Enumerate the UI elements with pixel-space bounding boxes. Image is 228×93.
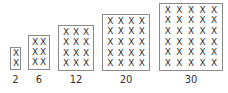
x-mark: X: [63, 28, 69, 37]
x-mark: X: [139, 59, 145, 68]
x-mark: X: [13, 49, 19, 58]
x-mark: X: [128, 27, 134, 36]
x-mark: X: [118, 38, 124, 47]
x-mark: X: [107, 27, 113, 36]
x-mark: X: [83, 28, 89, 37]
x-mark: X: [176, 48, 182, 57]
array-box-2: XX: [10, 47, 21, 70]
x-mark: X: [118, 17, 124, 26]
x-mark: X: [107, 38, 113, 47]
x-mark: X: [139, 17, 145, 26]
x-mark: X: [107, 17, 113, 26]
x-mark: X: [200, 48, 206, 57]
x-mark: X: [40, 38, 46, 47]
x-mark: X: [128, 38, 134, 47]
x-mark: X: [211, 48, 217, 57]
x-mark: X: [176, 59, 182, 68]
x-mark: X: [118, 27, 124, 36]
x-mark: X: [176, 16, 182, 25]
x-mark: X: [63, 38, 69, 47]
array-label-30: 30: [171, 74, 211, 85]
x-mark: X: [176, 6, 182, 15]
x-mark: X: [176, 27, 182, 36]
x-mark: X: [13, 59, 19, 68]
x-mark: X: [211, 38, 217, 47]
array-box-20: XXXXXXXXXXXXXXXXXXXX: [102, 14, 150, 71]
x-mark: X: [211, 59, 217, 68]
x-mark: X: [118, 59, 124, 68]
x-mark: X: [188, 6, 194, 15]
x-mark: X: [200, 6, 206, 15]
array-box-12: XXXXXXXXXXXX: [58, 25, 94, 71]
x-mark: X: [118, 49, 124, 58]
x-mark: X: [128, 59, 134, 68]
x-mark: X: [188, 16, 194, 25]
x-mark: X: [73, 38, 79, 47]
x-mark: X: [200, 38, 206, 47]
x-mark: X: [73, 49, 79, 58]
array-label-20: 20: [106, 74, 146, 85]
x-mark: X: [200, 27, 206, 36]
x-mark: X: [32, 38, 38, 47]
x-mark: X: [139, 38, 145, 47]
x-mark: X: [83, 38, 89, 47]
x-mark: X: [200, 59, 206, 68]
x-mark: X: [211, 6, 217, 15]
x-mark: X: [73, 28, 79, 37]
array-label-6: 6: [19, 74, 59, 85]
array-box-6: XXXXXX: [28, 35, 50, 70]
x-mark: X: [128, 17, 134, 26]
x-mark: X: [83, 59, 89, 68]
x-mark: X: [139, 27, 145, 36]
x-mark: X: [165, 6, 171, 15]
x-mark: X: [165, 59, 171, 68]
x-mark: X: [63, 59, 69, 68]
x-mark: X: [32, 58, 38, 67]
x-mark: X: [188, 38, 194, 47]
x-mark: X: [188, 27, 194, 36]
array-box-30: XXXXXXXXXXXXXXXXXXXXXXXXXXXXXX: [159, 3, 223, 71]
x-mark: X: [107, 59, 113, 68]
x-mark: X: [165, 48, 171, 57]
x-mark: X: [32, 48, 38, 57]
array-label-12: 12: [56, 74, 96, 85]
x-mark: X: [211, 27, 217, 36]
x-mark: X: [188, 48, 194, 57]
x-mark: X: [165, 16, 171, 25]
x-mark: X: [73, 59, 79, 68]
x-mark: X: [107, 49, 113, 58]
x-mark: X: [83, 49, 89, 58]
x-mark: X: [40, 58, 46, 67]
x-mark: X: [63, 49, 69, 58]
x-mark: X: [40, 48, 46, 57]
x-mark: X: [200, 16, 206, 25]
x-mark: X: [188, 59, 194, 68]
x-mark: X: [165, 27, 171, 36]
x-mark: X: [211, 16, 217, 25]
x-mark: X: [139, 49, 145, 58]
x-mark: X: [176, 38, 182, 47]
x-mark: X: [128, 49, 134, 58]
x-mark: X: [165, 38, 171, 47]
